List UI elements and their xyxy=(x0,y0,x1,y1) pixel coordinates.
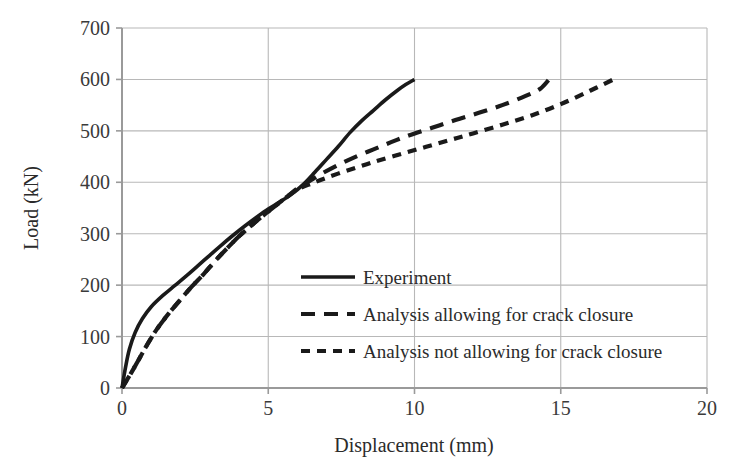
load-displacement-chart: 0100200300400500600700 05101520 Displace… xyxy=(0,0,749,471)
y-axis-tick-label: 100 xyxy=(80,326,110,348)
x-axis-title: Displacement (mm) xyxy=(334,434,493,457)
y-axis-tick-label: 0 xyxy=(100,377,110,399)
y-axis-title: Load (kN) xyxy=(20,166,43,250)
legend-label: Analysis not allowing for crack closure xyxy=(363,341,662,362)
x-axis-tick-label: 0 xyxy=(117,397,127,419)
x-axis-tick-label: 10 xyxy=(405,397,425,419)
legend-label: Analysis allowing for crack closure xyxy=(363,304,633,325)
legend-label: Experiment xyxy=(363,267,452,288)
x-axis-tick-label: 20 xyxy=(697,397,717,419)
chart-background xyxy=(0,0,749,471)
y-axis-tick-label: 400 xyxy=(80,171,110,193)
y-axis-tick-label: 600 xyxy=(80,68,110,90)
y-axis-tick-label: 700 xyxy=(80,17,110,39)
x-axis-tick-label: 5 xyxy=(263,397,273,419)
x-axis-tick-label: 15 xyxy=(551,397,571,419)
y-axis-tick-label: 300 xyxy=(80,223,110,245)
y-axis-tick-label: 200 xyxy=(80,274,110,296)
chart-container: 0100200300400500600700 05101520 Displace… xyxy=(0,0,749,471)
y-axis-tick-label: 500 xyxy=(80,120,110,142)
